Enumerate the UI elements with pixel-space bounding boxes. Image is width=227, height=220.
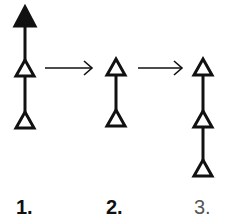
stage-3-label: 3. [194, 197, 211, 217]
filled-triangle-icon [15, 7, 35, 26]
diagram-canvas [0, 0, 227, 220]
hollow-triangle-icon [16, 60, 34, 76]
transition-arrow-1 [45, 61, 92, 75]
stage-3 [194, 59, 212, 176]
transition-arrow-2 [138, 61, 182, 75]
hollow-triangle-icon [194, 111, 212, 127]
stage-2-label: 2. [106, 197, 123, 217]
stage-2 [107, 59, 125, 126]
hollow-triangle-icon [194, 160, 212, 176]
hollow-triangle-icon [107, 59, 125, 75]
hollow-triangle-icon [194, 59, 212, 75]
hollow-triangle-icon [16, 112, 34, 128]
hollow-triangle-icon [107, 110, 125, 126]
stage-1 [15, 7, 35, 128]
stage-1-label: 1. [16, 197, 33, 217]
